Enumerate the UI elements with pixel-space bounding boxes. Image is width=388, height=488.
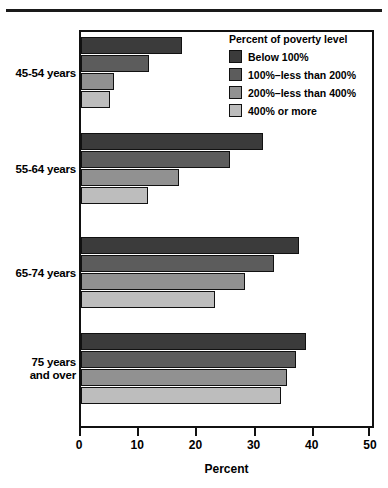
bar — [81, 73, 114, 90]
x-axis-tick — [254, 428, 256, 436]
legend-label: 200%–less than 400% — [248, 87, 356, 99]
bar — [81, 169, 179, 186]
x-axis-title: Percent — [79, 462, 374, 476]
x-axis-tick-label: 10 — [117, 438, 157, 452]
y-axis-label: 65-74 years — [0, 267, 76, 280]
bar — [81, 151, 230, 168]
legend-item: 400% or more — [229, 104, 381, 117]
x-axis-ticks — [0, 428, 388, 438]
x-axis-tick-label: 50 — [350, 438, 388, 452]
x-axis-tick-label: 40 — [292, 438, 332, 452]
x-axis-tick — [195, 428, 197, 436]
bar-group — [81, 133, 372, 205]
legend: Percent of poverty level Below 100%100%–… — [229, 33, 381, 122]
x-axis-tick-labels: 01020304050 — [0, 438, 388, 454]
bar — [81, 237, 299, 254]
bar — [81, 255, 274, 272]
bar — [81, 333, 306, 350]
x-axis-tick-label: 20 — [175, 438, 215, 452]
bar-group — [81, 333, 372, 405]
legend-item: Below 100% — [229, 50, 381, 63]
bar — [81, 351, 296, 368]
legend-label: Below 100% — [248, 51, 309, 63]
legend-label: 100%–less than 200% — [248, 69, 356, 81]
bar — [81, 91, 110, 108]
y-axis-label-line: 65-74 years — [0, 267, 76, 280]
y-axis-label-line: and over — [0, 369, 76, 382]
y-axis-label: 55-64 years — [0, 163, 76, 176]
y-axis-label-line: 75 years — [0, 356, 76, 369]
x-axis-tick-label: 30 — [234, 438, 274, 452]
legend-title: Percent of poverty level — [229, 33, 381, 45]
legend-item: 200%–less than 400% — [229, 86, 381, 99]
bar — [81, 187, 148, 204]
x-axis-tick — [368, 428, 370, 436]
legend-label: 400% or more — [248, 105, 317, 117]
legend-swatch — [229, 50, 242, 63]
bar — [81, 55, 149, 72]
bar — [81, 291, 215, 308]
x-axis-tick — [137, 428, 139, 436]
bar — [81, 369, 287, 386]
bar — [81, 37, 182, 54]
legend-swatch — [229, 68, 242, 81]
bar-group — [81, 237, 372, 309]
legend-swatch — [229, 86, 242, 99]
bar — [81, 387, 281, 404]
x-axis-tick — [312, 428, 314, 436]
x-axis-tick-label: 0 — [59, 438, 99, 452]
legend-rows: Below 100%100%–less than 200%200%–less t… — [229, 50, 381, 117]
legend-swatch — [229, 104, 242, 117]
bar — [81, 273, 245, 290]
y-axis-label: 75 yearsand over — [0, 356, 76, 381]
y-axis-label-line: 55-64 years — [0, 163, 76, 176]
x-axis-tick — [79, 428, 81, 436]
legend-item: 100%–less than 200% — [229, 68, 381, 81]
y-axis-label-line: 45-54 years — [0, 67, 76, 80]
bar — [81, 133, 263, 150]
y-axis-label: 45-54 years — [0, 67, 76, 80]
y-axis-category-labels: 45-54 years55-64 years65-74 years75 year… — [0, 0, 76, 488]
